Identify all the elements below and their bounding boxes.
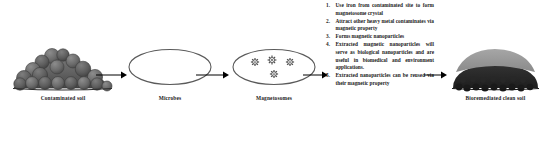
instruction-number: 4. <box>326 41 334 49</box>
instruction-item: 1. Use iron from contaminated site to fo… <box>326 2 434 17</box>
clean-soil-mound-icon <box>443 42 548 92</box>
instruction-number: 3. <box>326 33 334 41</box>
instruction-text: Extracted magnetic nanoparticles will se… <box>336 41 435 70</box>
instruction-number: 1. <box>326 2 334 10</box>
arrow-microbes-to-magnetosomes <box>196 66 230 84</box>
instruction-number: 5. <box>326 72 334 80</box>
stage-label-magnetosomes: Magnetosomes <box>228 96 320 101</box>
instruction-text: Extracted nanoparticles can be reused vi… <box>336 72 435 86</box>
bioremediation-flow-diagram: Contaminated soil Microbes <box>0 0 553 147</box>
instruction-text: Forms magnetic nanoparticles <box>336 33 405 39</box>
instruction-item: 5. Extracted nanoparticles can be reused… <box>326 72 434 87</box>
stage-label-bioremediated-clean-soil: Bioremediated clean soil <box>443 96 548 101</box>
stage-bioremediated-clean-soil: Bioremediated clean soil <box>443 42 548 101</box>
instruction-item: 4. Extracted magnetic nanoparticles will… <box>326 41 434 72</box>
instruction-item: 3. Forms magnetic nanoparticles <box>326 33 434 41</box>
instruction-text: Use iron from contaminated site to form … <box>336 2 435 16</box>
instruction-text: Attract other heavy metal contaminates v… <box>336 18 435 32</box>
stage-label-contaminated-soil: Contaminated soil <box>8 96 118 101</box>
instruction-item: 2. Attract other heavy metal contaminate… <box>326 18 434 33</box>
instruction-number: 2. <box>326 18 334 26</box>
stage-label-microbes: Microbes <box>124 96 216 101</box>
process-instruction-list: 1. Use iron from contaminated site to fo… <box>326 2 434 88</box>
